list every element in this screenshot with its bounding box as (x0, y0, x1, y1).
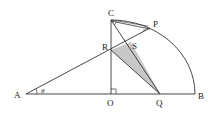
label-o: O (107, 98, 114, 108)
label-r: R (102, 42, 108, 52)
label-b: B (198, 91, 204, 101)
label-s: S (132, 41, 137, 51)
label-p: P (153, 19, 158, 29)
angle-mark-c (114, 22, 116, 25)
label-theta: θ (41, 87, 45, 95)
right-angle-marker (111, 89, 116, 94)
geometry-diagram: A O Q B C P R S θ (0, 0, 208, 118)
label-c: C (108, 8, 114, 18)
label-a: A (14, 90, 21, 100)
label-q: Q (156, 98, 163, 108)
angle-theta-arc (36, 89, 37, 94)
